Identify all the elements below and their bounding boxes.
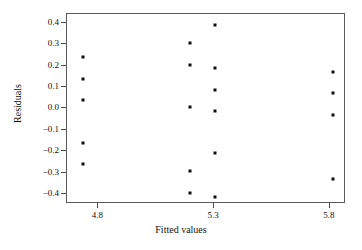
data-point	[214, 196, 217, 199]
y-axis-tick-label: −0.4	[43, 189, 59, 198]
data-point	[214, 67, 217, 70]
y-axis-tick-label: 0.4	[48, 17, 59, 26]
y-axis-title: Residuals	[12, 54, 23, 154]
data-point	[214, 152, 217, 155]
data-point	[214, 88, 217, 91]
data-point	[332, 113, 335, 116]
y-axis-tick	[61, 107, 66, 108]
data-point	[214, 109, 217, 112]
y-axis-tick-label: −0.3	[43, 167, 59, 176]
data-point	[188, 42, 191, 45]
y-axis-tick-label: 0.0	[48, 103, 59, 112]
data-point	[82, 98, 85, 101]
x-axis-tick	[329, 203, 330, 208]
x-axis-tick	[97, 203, 98, 208]
x-axis-tick-label: 5.3	[207, 210, 218, 220]
y-axis-tick-label: 0.2	[48, 60, 59, 69]
residuals-vs-fitted-scatter-chart: 0.40.30.20.10.0−0.1−0.2−0.3−0.4 4.85.35.…	[0, 0, 362, 250]
x-axis-title: Fitted values	[0, 224, 362, 235]
data-point	[188, 170, 191, 173]
data-point	[82, 77, 85, 80]
y-axis-tick	[61, 150, 66, 151]
y-axis-tick	[61, 22, 66, 23]
data-point	[214, 24, 217, 27]
y-axis-tick-label: −0.1	[43, 124, 59, 133]
data-point	[82, 141, 85, 144]
y-axis-tick	[61, 129, 66, 130]
data-point	[332, 70, 335, 73]
data-point	[332, 91, 335, 94]
y-axis-tick-label: 0.3	[48, 39, 59, 48]
y-axis-tick-label: −0.2	[43, 146, 59, 155]
data-point	[188, 192, 191, 195]
plot-area	[66, 13, 345, 203]
data-point	[82, 163, 85, 166]
data-point	[82, 56, 85, 59]
data-point	[188, 105, 191, 108]
y-axis-tick	[61, 86, 66, 87]
x-axis-tick-label: 4.8	[92, 210, 103, 220]
x-axis-tick-label: 5.8	[323, 210, 334, 220]
y-axis-tick	[61, 65, 66, 66]
x-axis-tick	[213, 203, 214, 208]
y-axis-tick	[61, 172, 66, 173]
y-axis-tick	[61, 193, 66, 194]
y-axis-tick-label: 0.1	[48, 81, 59, 90]
data-point	[332, 177, 335, 180]
data-point	[188, 63, 191, 66]
y-axis-tick	[61, 43, 66, 44]
